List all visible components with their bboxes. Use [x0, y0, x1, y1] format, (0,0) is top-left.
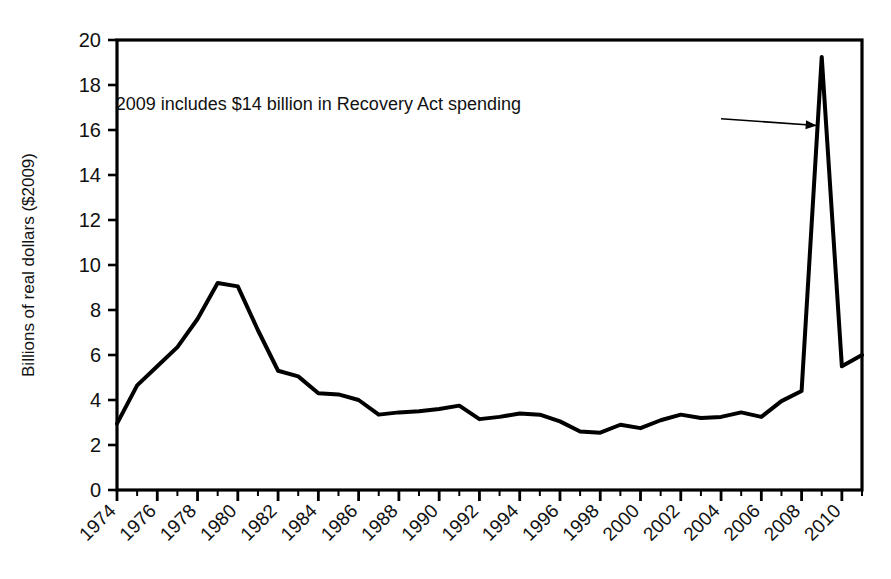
y-tick-label: 8: [90, 299, 101, 321]
chart-figure: 02468101214161820 1974197619781980198219…: [0, 0, 891, 579]
y-tick-label: 20: [79, 29, 101, 51]
y-tick-label: 6: [90, 344, 101, 366]
y-tick-label: 12: [79, 209, 101, 231]
line-chart: 02468101214161820 1974197619781980198219…: [0, 0, 891, 579]
chart-background: [0, 0, 891, 579]
y-tick-label: 2: [90, 434, 101, 456]
y-tick-label: 0: [90, 479, 101, 501]
y-tick-label: 10: [79, 254, 101, 276]
y-axis-title: Billions of real dollars ($2009): [19, 153, 38, 377]
y-tick-label: 16: [79, 119, 101, 141]
chart-annotation-text: 2009 includes $14 billion in Recovery Ac…: [116, 94, 521, 114]
y-tick-label: 18: [79, 74, 101, 96]
y-tick-label: 4: [90, 389, 101, 411]
y-tick-label: 14: [79, 164, 101, 186]
